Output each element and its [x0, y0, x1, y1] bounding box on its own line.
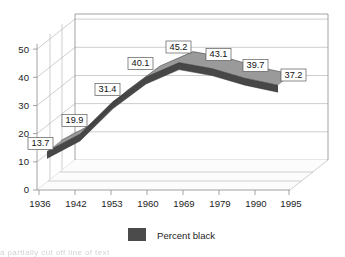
data-label-1979: 43.1	[210, 49, 228, 59]
clipped-caption-line: a partially cut off line of text	[0, 248, 345, 257]
chart-container: 0 10 20 30 40 50 13.7 19.9	[0, 0, 345, 257]
data-label-1953: 31.4	[99, 84, 117, 94]
x-axis-ticks: 1936 1942 1953 1960 1969 1979 1990 1995	[29, 190, 301, 209]
data-label-1990: 39.7	[247, 60, 265, 70]
y-tick-label-10: 10	[18, 156, 29, 167]
data-label-1936: 13.7	[32, 138, 50, 148]
percent-black-3d-area-chart: 0 10 20 30 40 50 13.7 19.9	[0, 0, 345, 257]
x-tick-label-1995: 1995	[280, 198, 301, 209]
chart-legend: Percent black	[128, 228, 215, 241]
x-tick-label-1942: 1942	[65, 198, 86, 209]
y-tick-label-30: 30	[18, 100, 29, 111]
x-tick-label-1969: 1969	[173, 198, 194, 209]
floor	[37, 160, 328, 190]
x-tick-label-1960: 1960	[137, 198, 158, 209]
y-tick-label-20: 20	[18, 128, 29, 139]
legend-label-percent-black: Percent black	[157, 230, 215, 241]
data-label-1995: 37.2	[285, 70, 303, 80]
y-tick-label-40: 40	[18, 72, 29, 83]
x-tick-label-1979: 1979	[209, 198, 230, 209]
clipped-caption-text: a partially cut off line of text	[0, 248, 110, 257]
left-side-wall	[37, 14, 75, 190]
x-tick-label-1953: 1953	[101, 198, 122, 209]
legend-swatch-percent-black	[128, 228, 146, 241]
y-tick-label-0: 0	[24, 184, 29, 195]
data-label-1942: 19.9	[66, 115, 84, 125]
x-tick-label-1936: 1936	[29, 198, 50, 209]
data-label-1969: 45.2	[170, 42, 188, 52]
y-axis-ticks: 0 10 20 30 40 50	[18, 44, 37, 196]
y-tick-label-50: 50	[18, 44, 29, 55]
data-label-1960: 40.1	[132, 58, 150, 68]
x-tick-label-1990: 1990	[245, 198, 266, 209]
